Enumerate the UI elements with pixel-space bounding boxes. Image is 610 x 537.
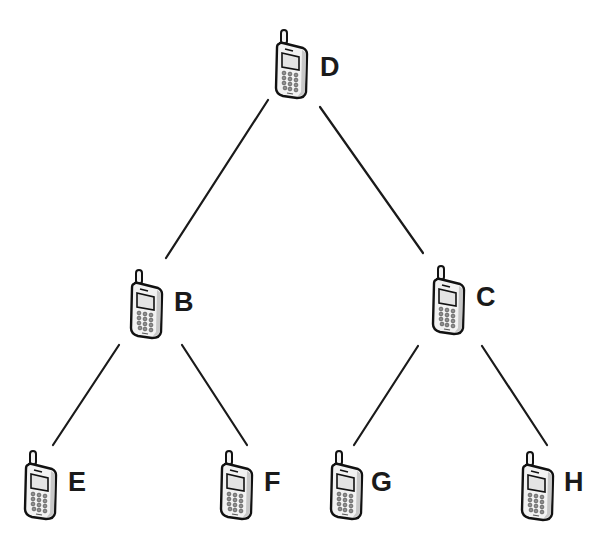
mobile-phone-icon <box>276 30 307 98</box>
mobile-phone-icon <box>331 451 362 519</box>
edge-d-c <box>320 107 423 253</box>
node-label-g: G <box>371 467 392 497</box>
edge-b-f <box>182 345 247 445</box>
mobile-phone-icon <box>25 451 56 519</box>
node-f: F <box>221 451 281 519</box>
edge-c-h <box>482 346 547 445</box>
mobile-phone-icon <box>131 270 162 338</box>
edge-b-e <box>53 345 119 445</box>
node-e: E <box>25 451 86 519</box>
node-label-c: C <box>476 282 496 312</box>
edge-d-b <box>166 100 268 258</box>
tree-diagram: D B C E F G H <box>0 0 610 537</box>
edges <box>53 100 547 445</box>
node-label-h: H <box>564 467 584 497</box>
mobile-phone-icon <box>522 452 553 520</box>
node-c: C <box>433 266 496 334</box>
node-b: B <box>131 270 194 338</box>
node-label-d: D <box>320 52 340 82</box>
mobile-phone-icon <box>221 451 252 519</box>
node-h: H <box>522 452 584 520</box>
mobile-phone-icon <box>433 266 464 334</box>
node-label-f: F <box>264 467 281 497</box>
node-label-e: E <box>68 467 86 497</box>
node-label-b: B <box>174 287 194 317</box>
node-d: D <box>276 30 340 98</box>
edge-c-g <box>354 346 418 445</box>
node-g: G <box>331 451 392 519</box>
